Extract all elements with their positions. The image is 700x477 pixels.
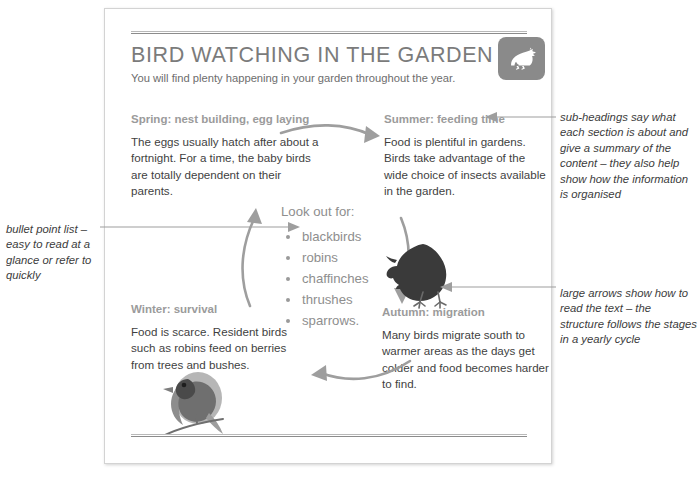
- annotation-bullet-list: bullet point list – easy to read at a gl…: [6, 222, 102, 284]
- season-block-spring: Spring: nest building, egg laying The eg…: [131, 113, 321, 199]
- season-block-summer: Summer: feeding time Food is plentiful i…: [384, 113, 549, 199]
- list-item: sparrows.: [280, 310, 415, 331]
- arrowhead-winter-spring: [247, 208, 262, 224]
- footer-divider: [131, 434, 527, 437]
- arrowhead-autumn-winter: [311, 365, 327, 381]
- list-item: robins: [280, 247, 415, 268]
- lookout-title: Look out for:: [281, 204, 415, 219]
- season-body-summer: Food is plentiful in gardens. Birds take…: [384, 134, 549, 199]
- season-heading-summer: Summer: feeding time: [384, 113, 549, 125]
- season-heading-spring: Spring: nest building, egg laying: [131, 113, 321, 125]
- list-item: thrushes: [280, 289, 415, 310]
- arrowhead-spring-summer: [364, 126, 380, 143]
- robin-icon: [163, 372, 223, 436]
- lookout-items: blackbirds robins chaffinches thrushes s…: [280, 226, 415, 331]
- bird-icon: [498, 37, 545, 80]
- document-page: BIRD WATCHING IN THE GARDEN You will fin…: [104, 8, 552, 464]
- annotation-subheadings: sub-headings say what each section is ab…: [560, 110, 696, 202]
- season-body-winter: Food is scarce. Resident birds such as r…: [131, 324, 311, 373]
- cycle-arrow-winter-spring: [243, 219, 254, 306]
- season-body-autumn: Many birds migrate south to warmer areas…: [382, 327, 557, 392]
- list-item: blackbirds: [280, 226, 415, 247]
- page-title: BIRD WATCHING IN THE GARDEN: [131, 43, 493, 68]
- list-item: chaffinches: [280, 268, 415, 289]
- lookout-list: Look out for: blackbirds robins chaffinc…: [280, 204, 415, 331]
- annotation-arrows: large arrows show how to read the text –…: [560, 286, 698, 348]
- page-subtitle: You will find plenty happening in your g…: [131, 72, 455, 84]
- season-body-spring: The eggs usually hatch after about a for…: [131, 134, 321, 199]
- header-divider-top: [131, 31, 527, 34]
